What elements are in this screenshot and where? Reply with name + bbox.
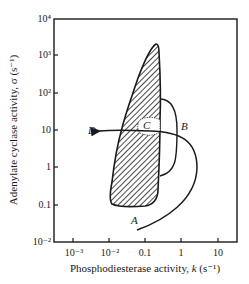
x-tick-label: 10⁻³ [65, 247, 83, 258]
y-tick-label: 0.1 [39, 199, 52, 210]
y-axis-label: Adenylate cyclase activity, σ (s⁻¹) [7, 55, 20, 206]
label-d: D [87, 124, 96, 136]
y-tick-label: 10² [38, 87, 51, 98]
y-tick-label: 10³ [38, 49, 51, 60]
y-tick-label: 10⁻² [33, 236, 51, 247]
x-axis-label: Phosphodiesterase activity, k (s⁻¹) [70, 262, 220, 275]
x-tick-label: 1 [179, 247, 184, 258]
label-a: A [130, 214, 138, 226]
x-tick-label: 0.1 [139, 247, 152, 258]
chart: 10⁴ 10³ 10² 10 1 0.1 10⁻² 10⁻³ 10⁻² 0.1 … [0, 0, 249, 284]
x-axis-tick-labels: 10⁻³ 10⁻² 0.1 1 10 [65, 247, 223, 258]
label-c: C [143, 119, 151, 131]
y-tick-label: 10⁴ [38, 13, 52, 24]
x-tick-label: 10 [213, 247, 223, 258]
y-tick-label: 1 [46, 161, 51, 172]
x-tick-label: 10⁻² [101, 247, 119, 258]
y-tick-label: 10 [41, 124, 51, 135]
label-b: B [181, 120, 188, 132]
y-axis-tick-labels: 10⁴ 10³ 10² 10 1 0.1 10⁻² [33, 13, 52, 247]
curve-b [160, 99, 177, 176]
